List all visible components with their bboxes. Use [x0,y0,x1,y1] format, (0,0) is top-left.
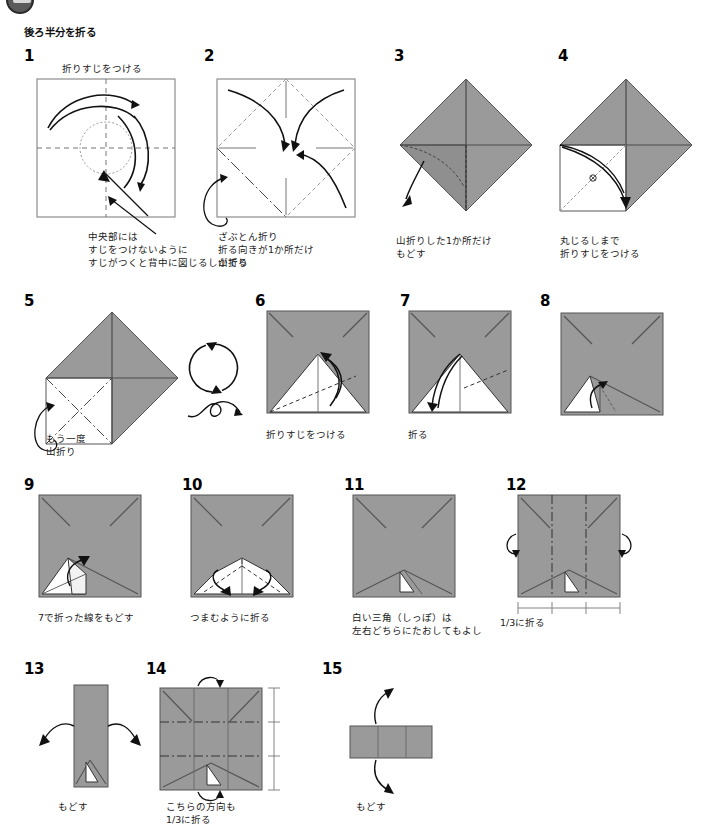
step-10-caption: つまむように折る [190,611,270,624]
step-number-13: 13 [24,660,44,678]
figure-step-4 [548,75,696,225]
flip-over-loop-icon [186,398,244,424]
figure-step-11 [352,494,456,598]
step-2-mountain-loop [198,172,232,234]
step-number-8: 8 [540,292,550,310]
step-4-caption: 丸じるしまで 折りすじをつける [560,234,640,260]
figure-step-7 [408,310,512,414]
step-13-caption: もどす [58,800,88,813]
step-number-11: 11 [344,476,364,494]
rotate-arrow-circle-icon [186,340,242,396]
figure-step-13 [36,684,144,788]
figure-step-15 [326,686,456,796]
figure-step-12 [500,494,636,618]
figure-step-10 [190,494,294,598]
step-1-top-caption: 折りすじをつける [62,62,142,75]
step-3-caption: 山折りした1か所だけ もどす [396,234,492,260]
step-2-caption: ざぶとん折り 折る向きが1か所だけ 山折り [218,230,314,269]
step-number-10: 10 [182,476,202,494]
step-6-caption: 折りすじをつける [266,428,346,441]
step-7-caption: 折る [408,428,428,441]
step-number-1: 1 [24,47,34,65]
figure-step-9 [38,494,142,598]
figure-step-6 [266,310,370,414]
step-5-caption: もう一度 山折り [46,432,86,458]
step-15-caption: もどす [356,800,386,813]
step-14-caption: こちらの方向も 1/3に折る [166,800,236,826]
figure-step-8 [560,312,664,416]
step-number-14: 14 [146,660,166,678]
figure-step-14 [150,678,286,802]
step-number-7: 7 [400,292,410,310]
page-corner-stamp [6,0,34,14]
figure-step-3 [396,75,536,225]
page-title: 後ろ半分を折る [24,24,96,39]
figure-step-2 [216,78,356,218]
step-number-15: 15 [322,660,342,678]
step-number-9: 9 [24,476,34,494]
step-number-2: 2 [204,47,214,65]
step-number-4: 4 [558,47,568,65]
step-number-12: 12 [506,476,526,494]
step-11-caption: 白い三角（しっぽ）は 左右どちらにたおしてもよし [352,611,482,637]
step-9-caption: 7で折った線をもどす [38,611,134,624]
origami-instruction-page: 後ろ半分を折る 1 折りすじをつける 中央部には すじをつけないように すじがつ… [0,0,703,838]
step-number-6: 6 [255,292,265,310]
step-number-3: 3 [394,47,404,65]
step-12-caption: 1/3に折る [500,616,545,629]
